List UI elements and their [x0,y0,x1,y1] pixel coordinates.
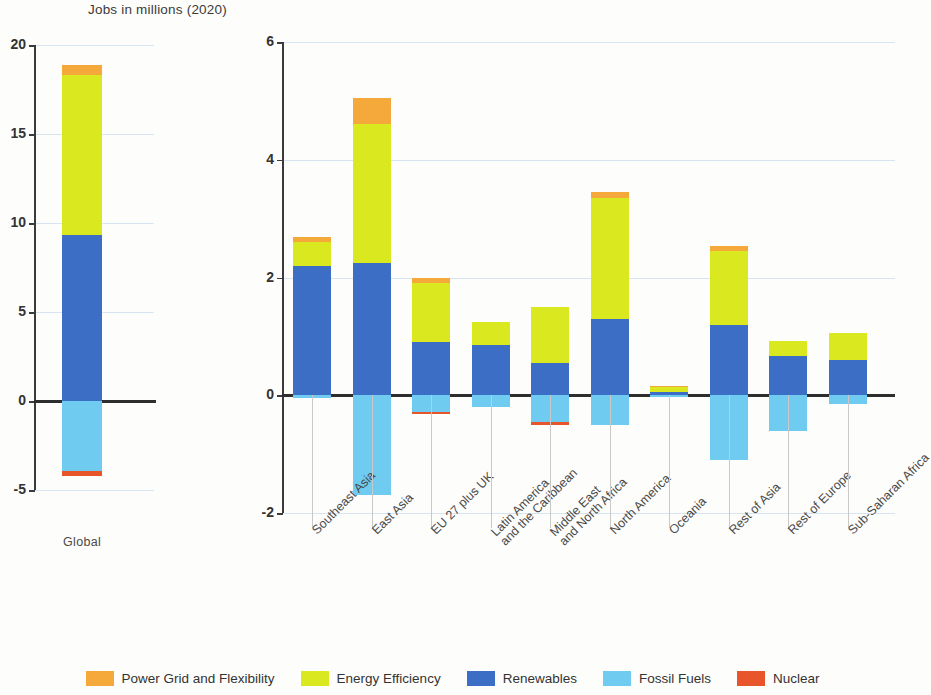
y-tick-label: 6 [236,33,274,49]
category-drop-tick [788,395,789,528]
bar-segment [62,75,102,235]
legend-swatch-power_grid [86,671,114,686]
bar-segment [353,98,391,124]
category-drop-tick [491,395,492,528]
bar-segment [412,342,450,395]
legend-swatch-energy_efficiency [301,671,329,686]
bar-segment [353,263,391,395]
bar-segment [710,246,748,251]
bar-segment [62,235,102,401]
y-tick-label: 20 [0,36,26,52]
legend-item[interactable]: Power Grid and Flexibility [86,671,275,686]
global-chart-panel: -505101520Global [0,0,235,640]
bar-group[interactable] [62,45,102,490]
bar-segment [829,333,867,359]
bar-segment [62,65,102,76]
gridline [34,490,154,491]
y-tick-mark [29,312,35,314]
y-tick-label: 4 [236,151,274,167]
category-drop-tick [610,395,611,528]
legend: Power Grid and FlexibilityEnergy Efficie… [0,662,905,695]
legend-label: Nuclear [773,671,820,686]
bar-segment [412,283,450,342]
legend-label: Power Grid and Flexibility [122,671,275,686]
y-tick-mark [29,45,35,47]
y-tick-mark [29,223,35,225]
bar-segment [412,278,450,284]
x-axis-label: Global [22,535,142,549]
y-tick-mark [29,134,35,136]
category-drop-tick [431,395,432,528]
legend-divider [0,645,905,646]
y-tick-mark [277,42,283,44]
y-tick-label: 2 [236,269,274,285]
regions-chart-panel: -20246Southeast AsiaEast AsiaEU 27 plus … [235,0,905,640]
y-tick-mark [29,490,35,492]
legend-label: Renewables [503,671,577,686]
bar-segment [829,360,867,395]
legend-item[interactable]: Nuclear [737,671,820,686]
bar-segment [472,345,510,395]
y-tick-label: 0 [236,386,274,402]
legend-item[interactable]: Renewables [467,671,577,686]
bar-segment [531,363,569,395]
y-axis [34,45,36,490]
y-tick-mark [277,513,283,515]
bar-segment [293,242,331,266]
category-drop-tick [550,395,551,528]
y-tick-label: -2 [236,504,274,520]
legend-swatch-fossil_fuels [603,671,631,686]
category-drop-tick [669,395,670,528]
legend-item[interactable]: Fossil Fuels [603,671,711,686]
category-drop-tick [312,395,313,528]
category-drop-tick [729,395,730,528]
bar-segment [710,325,748,396]
bar-segment [591,319,629,396]
y-tick-label: -5 [0,481,26,497]
bar-segment [62,401,102,471]
bar-segment [531,307,569,363]
bar-segment [353,124,391,262]
y-tick-label: 0 [0,392,26,408]
y-tick-mark [277,278,283,280]
bar-segment [293,266,331,396]
bar-segment [710,251,748,325]
bar-segment [591,192,629,198]
bar-segment [650,387,688,392]
legend-label: Fossil Fuels [639,671,711,686]
bar-segment [293,237,331,242]
legend-item[interactable]: Energy Efficiency [301,671,441,686]
y-tick-label: 15 [0,125,26,141]
bar-segment [591,198,629,319]
category-drop-tick [848,395,849,528]
legend-swatch-nuclear [737,671,765,686]
y-tick-mark [277,160,283,162]
legend-label: Energy Efficiency [337,671,441,686]
y-tick-label: 5 [0,303,26,319]
y-tick-label: 10 [0,214,26,230]
category-drop-tick [372,395,373,528]
bar-segment [769,356,807,395]
bar-segment [472,322,510,346]
legend-swatch-renewables [467,671,495,686]
bar-segment [769,341,807,356]
bar-segment [62,471,102,475]
bar-segment [650,386,688,387]
